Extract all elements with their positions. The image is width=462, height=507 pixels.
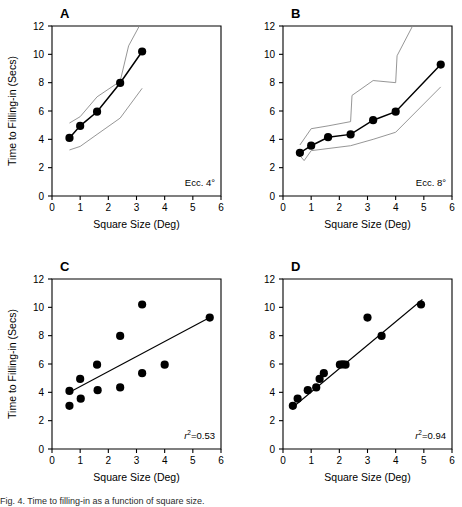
x-tick-label: 2 (337, 455, 343, 466)
x-tick-label: 6 (449, 455, 455, 466)
y-tick-label: 8 (269, 77, 275, 88)
panel-annotation: Ecc. 4° (185, 177, 215, 188)
y-axis-title: Time to Filling-in (Secs) (6, 309, 18, 419)
y-tick-label: 8 (269, 330, 275, 341)
x-tick-label: 3 (365, 202, 371, 213)
figure-caption: Fig. 4. Time to filling-in as a function… (0, 496, 462, 507)
panel-c: 0246810120123456Square Size (Deg)Time to… (0, 253, 231, 506)
x-tick-label: 5 (421, 202, 427, 213)
x-tick-label: 3 (365, 455, 371, 466)
data-point (341, 361, 349, 369)
y-tick-label: 10 (33, 302, 45, 313)
y-tick-label: 6 (269, 106, 275, 117)
data-point (294, 395, 302, 403)
plot-frame (52, 26, 221, 196)
x-tick-label: 4 (162, 202, 168, 213)
y-tick-label: 12 (264, 274, 276, 285)
x-tick-label: 0 (49, 455, 55, 466)
data-point (76, 375, 84, 383)
data-point (93, 108, 101, 116)
x-tick-label: 5 (190, 202, 196, 213)
data-point (161, 361, 169, 369)
data-point (206, 313, 214, 321)
data-point (369, 116, 377, 124)
x-tick-label: 3 (134, 455, 140, 466)
confidence-band-line (300, 26, 413, 145)
data-point (437, 60, 445, 68)
data-point (289, 402, 297, 410)
data-point (77, 395, 85, 403)
x-tick-label: 0 (280, 455, 286, 466)
data-point (65, 402, 73, 410)
y-tick-label: 0 (38, 444, 44, 455)
y-tick-label: 4 (269, 134, 275, 145)
x-tick-label: 3 (134, 202, 140, 213)
x-tick-label: 6 (218, 455, 224, 466)
y-tick-label: 4 (38, 134, 44, 145)
y-tick-label: 4 (38, 387, 44, 398)
regression-line (69, 318, 209, 393)
y-tick-label: 0 (38, 191, 44, 202)
x-tick-label: 4 (162, 455, 168, 466)
r-squared-annotation: r2=0.94 (415, 429, 446, 441)
y-tick-label: 2 (269, 162, 275, 173)
y-tick-label: 10 (264, 49, 276, 60)
y-tick-label: 6 (269, 359, 275, 370)
x-tick-label: 2 (337, 202, 343, 213)
figure-panel-grid: 0246810120123456Square Size (Deg)Time to… (0, 0, 462, 507)
panel-letter: C (60, 259, 70, 274)
data-point (296, 149, 304, 157)
y-tick-label: 0 (269, 191, 275, 202)
x-tick-label: 4 (393, 202, 399, 213)
data-point (347, 130, 355, 138)
data-point (392, 108, 400, 116)
x-axis-title: Square Size (Deg) (324, 471, 410, 483)
data-point (138, 369, 146, 377)
data-point (307, 142, 315, 150)
x-tick-label: 1 (308, 202, 314, 213)
panel-a: 0246810120123456Square Size (Deg)Time to… (0, 0, 231, 253)
panel-letter: A (60, 6, 70, 21)
confidence-band-line (300, 87, 441, 161)
x-tick-label: 4 (393, 455, 399, 466)
data-point (65, 387, 73, 395)
data-point (377, 332, 385, 340)
data-point (304, 386, 312, 394)
data-point (93, 361, 101, 369)
confidence-band-line (69, 26, 139, 123)
data-point (116, 332, 124, 340)
x-axis-title: Square Size (Deg) (93, 218, 179, 230)
x-tick-label: 2 (106, 202, 112, 213)
x-tick-label: 5 (190, 455, 196, 466)
panel-b: 0246810120123456Square Size (Deg)BEcc. 8… (231, 0, 462, 253)
x-tick-label: 0 (49, 202, 55, 213)
r-squared-annotation: r2=0.53 (184, 429, 215, 441)
plot-frame (52, 279, 221, 449)
y-tick-label: 8 (38, 330, 44, 341)
panel-annotation: Ecc. 8° (416, 177, 446, 188)
x-tick-label: 2 (106, 455, 112, 466)
y-tick-label: 2 (38, 162, 44, 173)
data-point (324, 133, 332, 141)
x-tick-label: 1 (77, 455, 83, 466)
data-point (363, 313, 371, 321)
panel-letter: B (291, 6, 300, 21)
data-point (94, 386, 102, 394)
confidence-band-line (69, 88, 142, 150)
data-point (116, 79, 124, 87)
data-point (116, 383, 124, 391)
panel-letter: D (291, 259, 300, 274)
y-tick-label: 10 (33, 49, 45, 60)
panel-d: 0246810120123456Square Size (Deg)Dr2=0.9… (231, 253, 462, 506)
data-point (76, 122, 84, 130)
regression-line (293, 300, 423, 408)
plot-frame (283, 279, 452, 449)
x-tick-label: 1 (77, 202, 83, 213)
data-point (65, 134, 73, 142)
x-tick-label: 6 (218, 202, 224, 213)
y-tick-label: 12 (264, 21, 276, 32)
y-tick-label: 4 (269, 387, 275, 398)
y-tick-label: 10 (264, 302, 276, 313)
plot-frame (283, 26, 452, 196)
data-point (138, 47, 146, 55)
